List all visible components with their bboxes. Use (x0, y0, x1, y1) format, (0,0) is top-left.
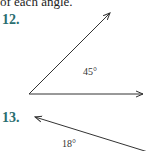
ray-arrow-icon (29, 13, 110, 94)
ray-arrow-icon (35, 117, 148, 151)
angle-12-diagram (29, 13, 143, 94)
angle-13-diagram (35, 117, 148, 151)
angle-diagrams (0, 0, 149, 151)
